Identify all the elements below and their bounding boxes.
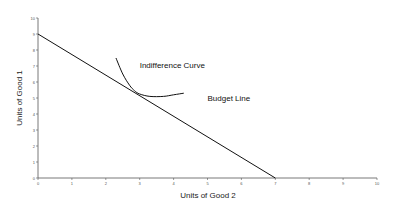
- y-tick-label: 5: [33, 96, 36, 101]
- x-tick-label: 4: [172, 181, 175, 186]
- budget-line-label: Budget Line: [208, 94, 251, 103]
- y-tick-label: 0: [33, 176, 36, 181]
- y-tick-label: 1: [33, 160, 36, 165]
- x-tick-label: 1: [71, 181, 74, 186]
- x-tick-label: 7: [274, 181, 277, 186]
- budget-line: [38, 34, 275, 178]
- x-tick-label: 3: [139, 181, 142, 186]
- x-tick-label: 8: [308, 181, 311, 186]
- y-tick-label: 10: [31, 16, 36, 21]
- x-tick-label: 5: [206, 181, 209, 186]
- y-tick-label: 9: [33, 32, 36, 37]
- x-tick-label: 2: [105, 181, 108, 186]
- x-tick-label: 9: [342, 181, 345, 186]
- y-tick-label: 3: [33, 128, 36, 133]
- x-axis-title: Units of Good 2: [180, 191, 236, 200]
- x-tick-label: 10: [375, 181, 380, 186]
- x-tick-label: 6: [240, 181, 243, 186]
- x-tick-label: 0: [37, 181, 40, 186]
- x-axis: 012345678910: [37, 178, 380, 186]
- y-tick-label: 2: [33, 144, 36, 149]
- chart: 012345678910 012345678910 Units of Good …: [0, 0, 398, 211]
- y-axis-title: Units of Good 1: [15, 70, 24, 126]
- y-tick-label: 8: [33, 48, 36, 53]
- y-tick-label: 6: [33, 80, 36, 85]
- y-tick-label: 7: [33, 64, 36, 69]
- y-axis: 012345678910: [31, 16, 38, 181]
- y-tick-label: 4: [33, 112, 36, 117]
- indifference-curve-label: Indifference Curve: [140, 61, 206, 70]
